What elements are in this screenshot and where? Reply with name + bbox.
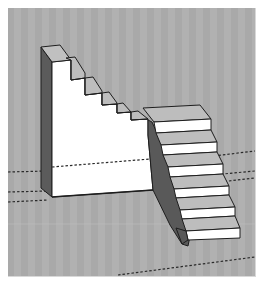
screenshot-frame <box>0 0 262 283</box>
block-left-face <box>41 47 52 197</box>
scene-canvas[interactable] <box>8 8 256 277</box>
model-viewport[interactable] <box>8 8 256 277</box>
